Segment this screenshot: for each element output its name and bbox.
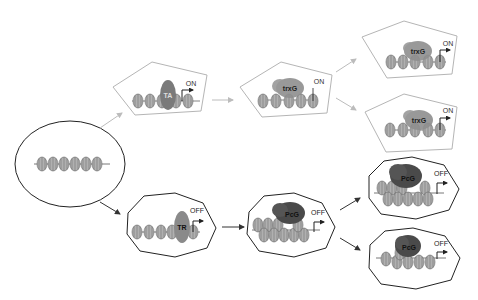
state-label-on: ON [186, 80, 197, 87]
arrow-repressed-2-3b [340, 238, 360, 250]
active-step-trxg-daughter-2: trxG ON [365, 94, 457, 152]
active-step-trxg: trxG ON [240, 62, 332, 117]
repressed-step-pcg-daughter-1: PcG OFF [369, 157, 459, 219]
factor-label-trxg: trxG [411, 48, 426, 55]
factor-label-pcg: PcG [401, 175, 416, 182]
state-label-off: OFF [311, 209, 325, 216]
state-label-off: OFF [434, 170, 448, 177]
factor-label-trxg: trxG [283, 85, 298, 92]
state-label-off: OFF [190, 207, 204, 214]
arrow-to-active [100, 113, 122, 128]
repressed-step-pcg: PcG OFF [247, 193, 335, 257]
factor-label-ta: TA [164, 92, 173, 99]
factor-label-trxg: trxG [412, 117, 427, 124]
arrow-to-repressed [100, 202, 120, 214]
repressed-step-pcg-daughter-2: PcG OFF [369, 228, 460, 289]
state-label-on: ON [314, 78, 325, 85]
arrow-active-2-3b [336, 98, 356, 110]
initial-chromatin-state [15, 121, 125, 207]
factor-label-pcg: PcG [285, 211, 300, 218]
diagram-canvas: TA ON trxG ON trxG ON [0, 0, 478, 300]
active-step-ta: TA ON [113, 62, 207, 115]
active-step-trxg-daughter-1: trxG ON [362, 21, 457, 78]
state-label-on: ON [443, 40, 454, 47]
arrow-active-2-3a [336, 59, 356, 72]
arrow-repressed-2-3a [340, 198, 360, 210]
factor-label-tr: TR [177, 224, 186, 231]
repressed-step-tr: TR OFF [127, 193, 216, 257]
state-label-on: ON [443, 107, 454, 114]
factor-label-pcg: PcG [402, 244, 417, 251]
state-label-off: OFF [434, 240, 448, 247]
